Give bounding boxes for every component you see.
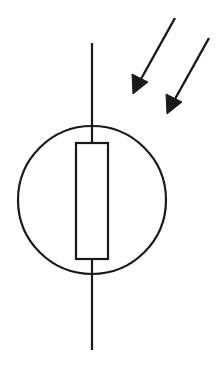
resistor-body <box>76 143 108 259</box>
arrow-head-icon <box>166 94 182 114</box>
photoresistor-symbol <box>0 0 218 370</box>
light-arrow-icon <box>141 18 175 79</box>
arrow-head-icon <box>132 74 148 94</box>
light-arrows <box>132 18 209 114</box>
light-arrow-icon <box>175 38 209 99</box>
